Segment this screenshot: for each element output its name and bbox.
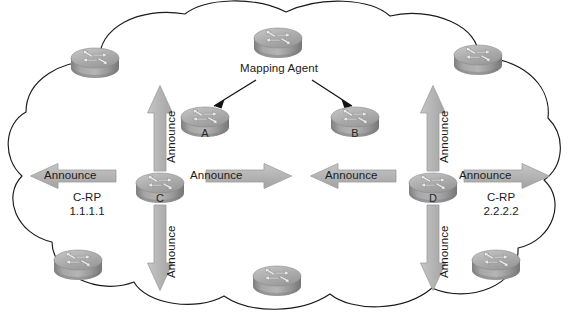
announce-label-d-left: Announce — [325, 169, 378, 182]
announce-label-d-up: Announce — [438, 110, 451, 163]
c-rp-role-d: C-RP — [462, 190, 540, 204]
router-label-d: D — [423, 192, 443, 204]
c-rp-address-d: 2.2.2.2 — [462, 204, 540, 218]
diagram-vector-layer — [0, 0, 569, 333]
router-label-b: B — [345, 127, 365, 139]
router-top-left[interactable] — [71, 48, 119, 78]
router-top-right[interactable] — [454, 45, 502, 75]
router-top-center[interactable] — [254, 28, 302, 58]
announce-label-d-down: Announce — [438, 225, 451, 278]
router-bottom-left[interactable] — [54, 250, 102, 280]
announce-label-c-left: Announce — [44, 169, 97, 182]
c-rp-annotation-c: C-RP 1.1.1.1 — [48, 190, 126, 218]
mapping-agent-label: Mapping Agent — [240, 62, 318, 75]
announce-label-c-right: Announce — [190, 169, 243, 182]
c-rp-address-c: 1.1.1.1 — [48, 204, 126, 218]
router-label-a: A — [195, 127, 215, 139]
router-bottom-center[interactable] — [253, 266, 301, 296]
c-rp-annotation-d: C-RP 2.2.2.2 — [462, 190, 540, 218]
network-diagram-canvas: Mapping Agent A B C D Announce Announce … — [0, 0, 569, 333]
announce-label-c-up: Announce — [165, 110, 178, 163]
announce-label-c-down: Announce — [165, 225, 178, 278]
announce-label-d-right: Announce — [459, 169, 512, 182]
router-label-c: C — [150, 192, 170, 204]
c-rp-role-c: C-RP — [48, 190, 126, 204]
router-bottom-right[interactable] — [472, 250, 520, 280]
